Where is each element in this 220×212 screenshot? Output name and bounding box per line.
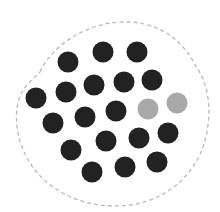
black-dot: [93, 42, 114, 63]
black-dot: [56, 82, 77, 103]
black-dot: [158, 123, 179, 144]
gray-dot: [138, 99, 159, 120]
black-dot: [114, 72, 135, 93]
black-dot: [129, 128, 150, 149]
black-dot: [96, 131, 117, 152]
black-dot: [115, 157, 136, 178]
dots-group: [26, 42, 188, 183]
black-dot: [106, 101, 127, 122]
black-dot: [26, 88, 47, 109]
black-dot: [61, 140, 82, 161]
black-dot: [84, 75, 105, 96]
black-dot: [75, 107, 96, 128]
black-dot: [82, 162, 103, 183]
black-dot: [127, 42, 148, 63]
gray-dot: [167, 93, 188, 114]
black-dot: [43, 113, 64, 134]
black-dot: [58, 52, 79, 73]
black-dot: [147, 152, 168, 173]
dot-cluster-diagram: [0, 0, 220, 212]
black-dot: [142, 70, 163, 91]
